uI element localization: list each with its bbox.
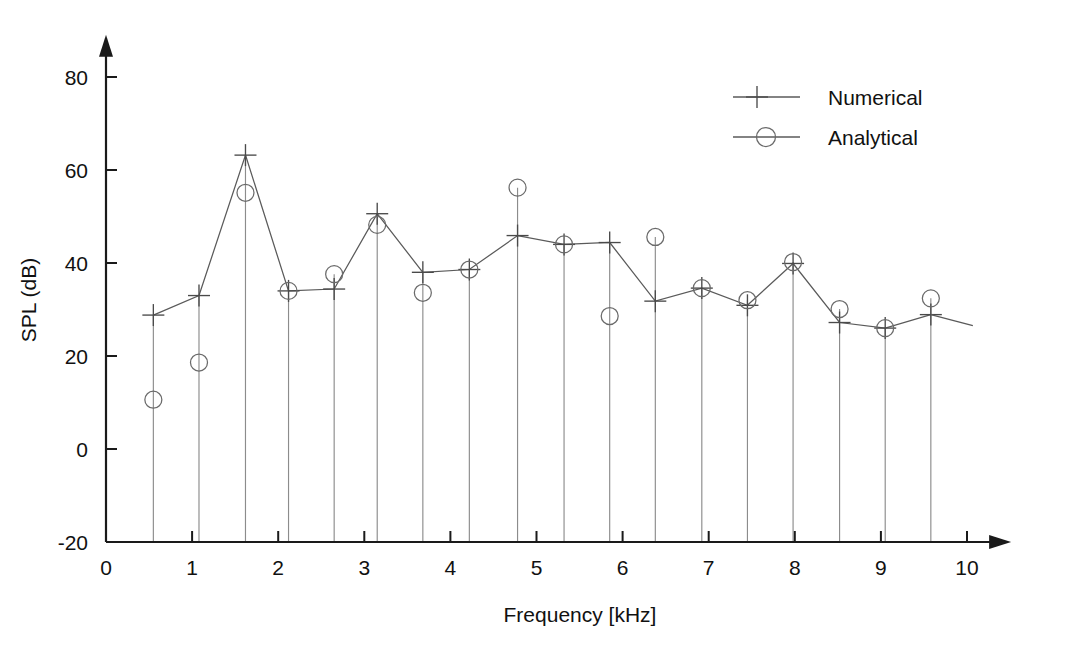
x-axis-tick-label: 0 [100,556,112,579]
y-axis-tick-label: 80 [65,66,88,89]
y-axis-title: SPL (dB) [17,258,40,342]
legend-label-numerical: Numerical [828,86,923,109]
legend-label-analytical: Analytical [828,126,918,149]
x-axis-tick-label: 2 [272,556,284,579]
y-axis-tick-label: 20 [65,345,88,368]
y-axis-tick-label: 40 [65,252,88,275]
y-axis-tick-label: -20 [58,531,88,554]
y-axis-tick-label: 60 [65,159,88,182]
x-axis-title: Frequency [kHz] [504,603,657,626]
x-axis-tick-label: 4 [445,556,457,579]
x-axis-tick-label: 7 [703,556,715,579]
x-axis-tick-label: 9 [875,556,887,579]
chart-figure: -20020406080012345678910 Frequency [kHz]… [0,0,1075,660]
x-axis-tick-label: 6 [617,556,629,579]
x-axis-tick-label: 10 [955,556,978,579]
x-axis-tick-label: 3 [358,556,370,579]
spl-frequency-chart: -20020406080012345678910 Frequency [kHz]… [0,0,1075,660]
x-axis-tick-label: 1 [186,556,198,579]
y-axis-tick-label: 0 [76,438,88,461]
x-axis-tick-label: 8 [789,556,801,579]
x-axis-tick-label: 5 [531,556,543,579]
